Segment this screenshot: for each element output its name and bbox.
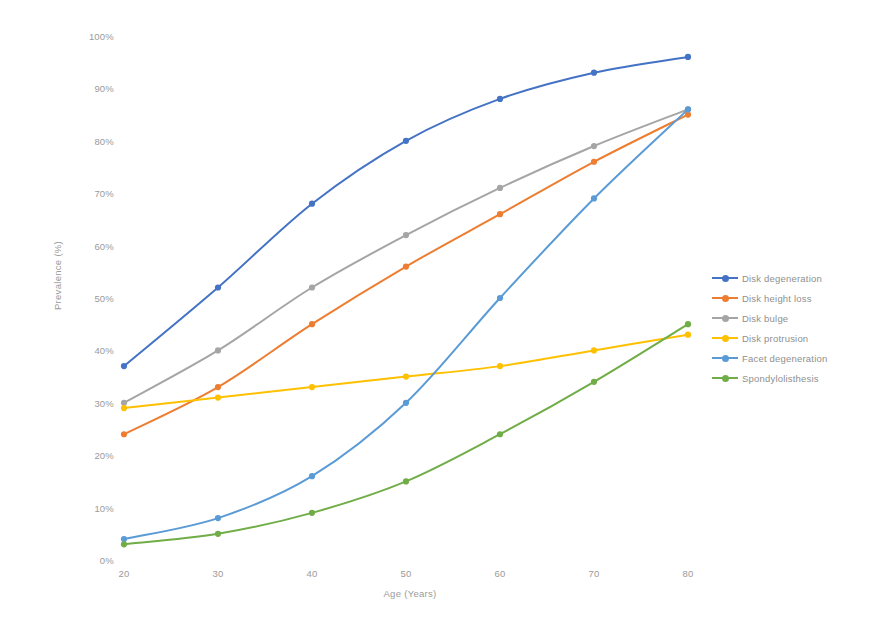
legend-item[interactable]: Disk bulge [712, 308, 880, 328]
legend-color-swatch [712, 332, 738, 344]
legend-marker-icon [722, 335, 729, 342]
legend-color-swatch [712, 292, 738, 304]
legend-item-label: Disk degeneration [742, 273, 822, 284]
legend-item-label: Disk height loss [742, 293, 812, 304]
legend-color-swatch [712, 272, 738, 284]
line-chart: 0%10%20%30%40%50%60%70%80%90%100% 203040… [0, 0, 883, 636]
x-axis-tick-label: 80 [668, 568, 708, 579]
x-axis-tick-label: 30 [198, 568, 238, 579]
legend-marker-icon [722, 355, 729, 362]
legend-color-swatch [712, 312, 738, 324]
legend-item[interactable]: Facet degeneration [712, 348, 880, 368]
legend-item[interactable]: Disk protrusion [712, 328, 880, 348]
legend-item[interactable]: Disk degeneration [712, 268, 880, 288]
legend-color-swatch [712, 352, 738, 364]
legend-item[interactable]: Spondylolisthesis [712, 368, 880, 388]
legend-marker-icon [722, 375, 729, 382]
legend-item-label: Spondylolisthesis [742, 373, 819, 384]
legend-item-label: Disk protrusion [742, 333, 808, 344]
legend-item-label: Disk bulge [742, 313, 788, 324]
chart-legend: Disk degenerationDisk height lossDisk bu… [712, 268, 880, 388]
x-axis-title: Age (Years) [120, 588, 700, 599]
y-axis-title: Prevalence (%) [52, 216, 63, 336]
legend-item[interactable]: Disk height loss [712, 288, 880, 308]
x-axis-tick-label: 60 [480, 568, 520, 579]
legend-color-swatch [712, 372, 738, 384]
legend-marker-icon [722, 295, 729, 302]
x-axis-tick-label: 50 [386, 568, 426, 579]
x-axis-tick-label: 20 [104, 568, 144, 579]
x-axis-tick-label: 40 [292, 568, 332, 579]
legend-marker-icon [722, 315, 729, 322]
legend-item-label: Facet degeneration [742, 353, 827, 364]
x-axis-tick-label: 70 [574, 568, 614, 579]
legend-marker-icon [722, 275, 729, 282]
